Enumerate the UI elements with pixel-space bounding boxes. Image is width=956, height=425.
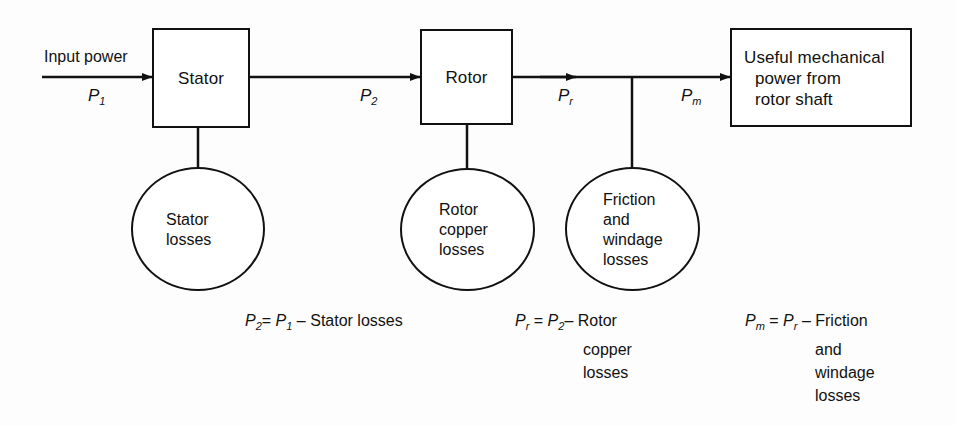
label-p1-subscript: 1 [99, 95, 105, 107]
node-output-power-label: Useful mechanical power from rotor shaft [744, 47, 904, 110]
label-pm-subscript: m [692, 95, 701, 107]
node-rotor-label: Rotor [422, 68, 511, 88]
equation-pr-minus: – [564, 312, 573, 329]
equation-pm-rhs: Pr [783, 312, 797, 329]
label-p2: P2 [360, 86, 377, 107]
equation-pm-equals: = [769, 312, 778, 329]
node-stator[interactable]: Stator [152, 28, 250, 128]
label-p2-symbol: P [360, 86, 371, 105]
equation-pm-lhs: Pm [745, 312, 765, 329]
node-stator-label: Stator [154, 69, 248, 89]
equation-pr-term-2: copper [515, 338, 632, 361]
equation-pr-term-1: Rotor [578, 312, 617, 329]
equation-p2-rhs: P1 [276, 312, 293, 329]
circle-stator-losses-label: Stator losses [166, 210, 211, 250]
equation-p2: P2= P1 – Stator losses [245, 309, 403, 338]
label-pm-symbol: P [681, 86, 692, 105]
equation-pm-minus: – [802, 312, 811, 329]
equation-p2-term: Stator losses [310, 312, 402, 329]
equation-pm-term-4: losses [745, 384, 875, 407]
equation-pr: Pr = P2– Rotor copper losses [515, 309, 632, 384]
node-rotor[interactable]: Rotor [420, 29, 513, 125]
label-pr: Pr [558, 86, 573, 107]
equation-pr-equals: = [534, 312, 543, 329]
circle-rotor-copper-losses-label: Rotor copper losses [439, 200, 488, 260]
label-pr-symbol: P [558, 86, 569, 105]
label-p1: P1 [88, 86, 105, 107]
equation-p2-equals: = [262, 312, 271, 329]
equation-pm-term-3: windage [745, 361, 875, 384]
power-flow-diagram: Stator Rotor Useful mechanical power fro… [0, 0, 956, 425]
circle-stator-losses[interactable]: Stator losses [131, 167, 265, 291]
equation-pr-rhs: P2 [548, 312, 565, 329]
input-power-label: Input power [44, 48, 128, 66]
circle-friction-windage-losses[interactable]: Friction and windage losses [565, 167, 700, 291]
equation-pm-term-1: Friction [815, 312, 867, 329]
equation-pr-term-3: losses [515, 361, 632, 384]
equation-p2-lhs: P2 [245, 312, 262, 329]
circle-friction-windage-losses-label: Friction and windage losses [603, 190, 663, 270]
label-p2-subscript: 2 [371, 95, 377, 107]
output-line-3: rotor shaft [744, 89, 904, 110]
equation-pr-lhs: Pr [515, 312, 529, 329]
label-pm: Pm [681, 86, 702, 107]
equation-pm-term-2: and [745, 338, 875, 361]
output-line-2: power from [744, 68, 904, 89]
circle-rotor-copper-losses[interactable]: Rotor copper losses [400, 168, 535, 291]
label-pr-subscript: r [569, 95, 573, 107]
equation-p2-minus: – [297, 312, 306, 329]
equation-pm: Pm = Pr – Friction and windage losses [745, 309, 875, 407]
label-p1-symbol: P [88, 86, 99, 105]
node-output-power[interactable]: Useful mechanical power from rotor shaft [730, 28, 912, 127]
output-line-1: Useful mechanical [744, 48, 885, 67]
